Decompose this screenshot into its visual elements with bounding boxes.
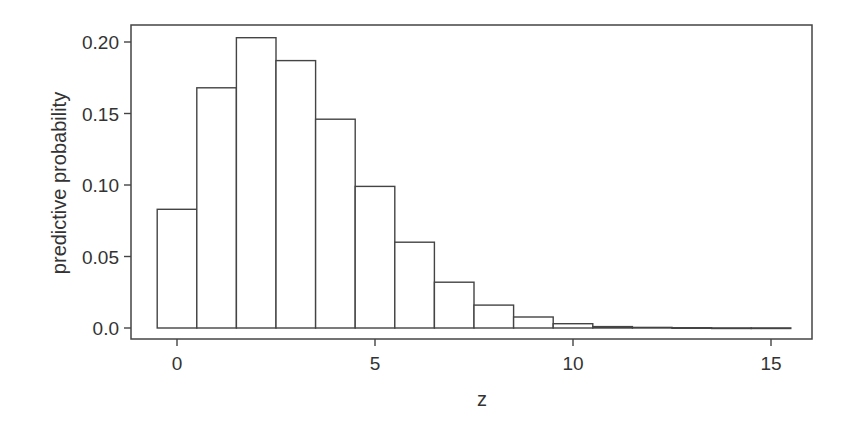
y-tick-label: 0.20 xyxy=(82,32,119,53)
y-tick-label: 0.0 xyxy=(93,318,119,339)
histogram-bar xyxy=(395,242,435,328)
histogram-bar xyxy=(236,38,276,328)
y-tick-label: 0.05 xyxy=(82,247,119,268)
histogram-chart: 0.00.050.100.150.20 051015 z predictive … xyxy=(0,0,851,422)
x-tick-label: 5 xyxy=(370,353,381,374)
histogram-bar xyxy=(474,305,514,328)
histogram-bar xyxy=(355,186,395,328)
y-axis: 0.00.050.100.150.20 xyxy=(82,32,131,339)
x-tick-label: 0 xyxy=(172,353,183,374)
histogram-bar xyxy=(672,328,712,329)
histogram-bar xyxy=(514,317,554,328)
histogram-bar xyxy=(434,282,474,328)
histogram-bar xyxy=(197,88,237,328)
x-axis-label: z xyxy=(477,388,487,410)
y-tick-label: 0.15 xyxy=(82,104,119,125)
x-tick-label: 15 xyxy=(760,353,781,374)
histogram-bar xyxy=(632,327,672,328)
y-tick-label: 0.10 xyxy=(82,175,119,196)
histogram-bar xyxy=(712,328,752,329)
x-axis: 051015 xyxy=(172,339,782,374)
x-tick-label: 10 xyxy=(562,353,583,374)
histogram-bar xyxy=(751,328,791,329)
histogram-bar xyxy=(157,209,197,328)
histogram-bar xyxy=(316,119,356,328)
histogram-bar xyxy=(593,327,633,328)
histogram-bar xyxy=(276,61,316,328)
bars-group xyxy=(157,38,791,329)
y-axis-label: predictive probability xyxy=(48,92,70,274)
histogram-bar xyxy=(553,324,593,328)
